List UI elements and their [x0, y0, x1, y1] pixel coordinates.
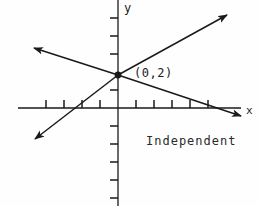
intersection-point-marker	[115, 72, 122, 79]
coordinate-plane-svg	[0, 0, 259, 206]
y-axis	[110, 0, 118, 206]
rising-line	[35, 15, 227, 139]
figure-caption: Independent	[146, 134, 236, 148]
falling-line	[34, 48, 241, 116]
graph-figure: y x (0,2) Independent	[0, 0, 259, 206]
x-axis-label: x	[246, 104, 253, 117]
x-axis	[18, 100, 241, 108]
y-axis-label: y	[124, 1, 132, 15]
intersection-point-label: (0,2)	[134, 66, 173, 80]
x-axis-ticks	[46, 100, 208, 108]
